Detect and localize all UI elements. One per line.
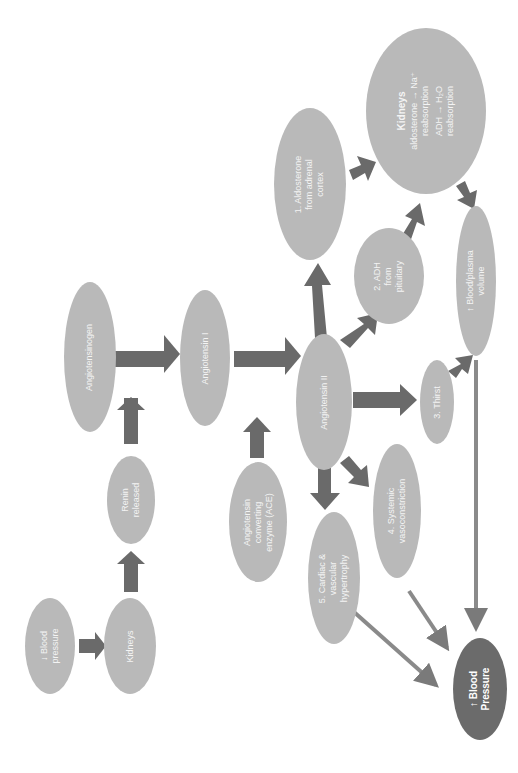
- arrow-hypertrophy-to-bp: [354, 612, 436, 685]
- node-angiotensin-1: Angiotensin I: [180, 290, 230, 426]
- arrow-angiotensin2-to-aldosterone: [304, 263, 331, 338]
- arrow-kidneys-to-renin: [117, 551, 145, 592]
- arrow-angiotensinogen-to-angiotensin1: [115, 335, 180, 373]
- arrow-ace-up: [243, 417, 271, 458]
- node-kidneys-left: Kidneys: [104, 598, 156, 694]
- node-cardiac-hypertrophy: 5. Cardiac &vascularhypertrophy: [308, 512, 360, 644]
- arrow-bp-to-kidneys: [79, 632, 106, 660]
- node-thirst: 3. Thirst: [420, 360, 454, 444]
- arrow-renin-up: [117, 397, 145, 444]
- arrow-vasoconstriction-to-bp: [409, 591, 447, 648]
- node-adh: 2. ADHfrompituitary: [354, 228, 424, 324]
- arrow-thirst-to-plasma: [448, 355, 473, 378]
- node-renin-released: Reninreleased: [107, 456, 155, 544]
- node-angiotensinogen: Angiotensinogen: [64, 282, 116, 432]
- node-ace: Angiotensinconvertingenzyme (ACE): [229, 462, 287, 582]
- arrow-aldosterone-to-kidneys: [349, 156, 376, 181]
- node-aldosterone: 1. Aldosteronefrom adrenalcortex: [274, 108, 346, 260]
- node-plasma-volume: ↑ Blood/plasmavolume: [456, 206, 496, 356]
- node-angiotensin-2: Angiotensin II: [296, 334, 352, 470]
- arrow-angiotensin2-to-thirst: [353, 384, 417, 416]
- arrow-angiotensin2-to-hypertrophy: [310, 468, 340, 510]
- arrow-angiotensin1-to-angiotensin2: [234, 337, 301, 375]
- arrow-kidneys-to-plasma: [456, 181, 477, 209]
- node-kidneys-right: Kidneys aldosterone → Na⁺ reabsorption A…: [366, 28, 486, 194]
- node-blood-pressure-high: ↑ BloodPressure: [453, 638, 507, 740]
- node-blood-pressure-low: ↓ Bloodpressure: [25, 598, 75, 694]
- arrow-angiotensin2-to-vasoconstriction: [340, 456, 369, 487]
- node-systemic-vasoconstriction: 4. Systemicvasoconstriction: [373, 444, 421, 578]
